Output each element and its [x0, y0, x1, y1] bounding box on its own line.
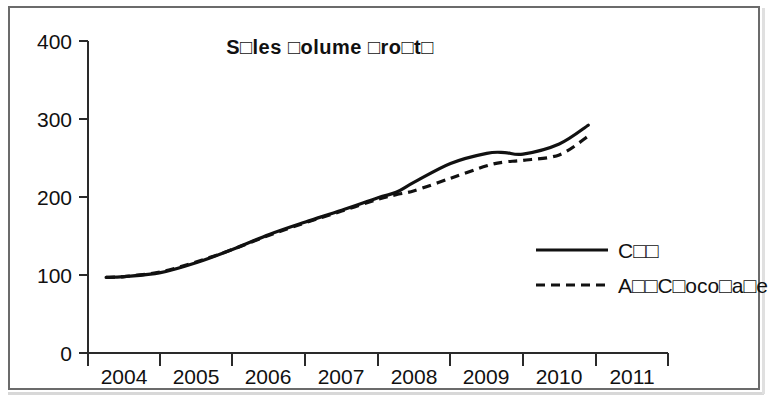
- x-tick-label-2004: 2004: [101, 365, 148, 388]
- y-tick-label-400: 400: [37, 30, 72, 53]
- x-tick-label-2007: 2007: [318, 365, 365, 388]
- y-axis-labels: 400 300 200 100 0: [37, 30, 72, 365]
- x-tick-label-2005: 2005: [173, 365, 220, 388]
- y-tick-label-200: 200: [37, 186, 72, 209]
- y-tick-label-0: 0: [60, 342, 72, 365]
- line-chart-plot: 400 300 200 100 0 2004 2005 2006 2007 20…: [0, 0, 776, 408]
- y-tick-label-100: 100: [37, 264, 72, 287]
- x-tick-label-2010: 2010: [536, 365, 583, 388]
- x-tick-label-2008: 2008: [391, 365, 438, 388]
- chart-title: S□les □olume □ro□t□: [226, 36, 434, 58]
- x-tick-label-2011: 2011: [609, 365, 654, 388]
- y-tick-label-300: 300: [37, 108, 72, 131]
- legend-label-0: C□□: [618, 239, 659, 262]
- legend-label-1: A□□C□oco□a□e: [618, 274, 768, 297]
- x-axis-labels: 2004 2005 2006 2007 2008 2009 2010 2011: [101, 365, 655, 388]
- chart-legend: C□□ A□□C□oco□a□e: [536, 239, 768, 297]
- chart-figure: 400 300 200 100 0 2004 2005 2006 2007 20…: [0, 0, 776, 408]
- x-tick-label-2006: 2006: [245, 365, 292, 388]
- y-axis-ticks: [79, 41, 88, 353]
- x-tick-label-2009: 2009: [463, 365, 510, 388]
- series-line-cake: [106, 125, 588, 277]
